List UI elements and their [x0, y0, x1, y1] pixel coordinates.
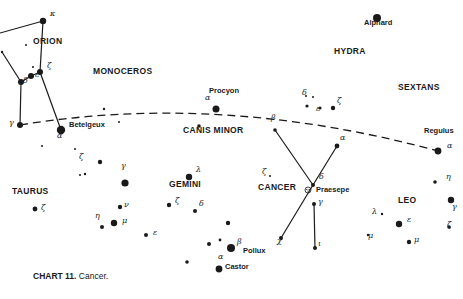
star-dot [32, 66, 34, 68]
greek-letter-label: η [446, 172, 451, 181]
greek-letter-label: ε [316, 104, 320, 113]
star-dot [216, 266, 223, 273]
greek-letter-label: α [340, 133, 345, 142]
star-dot [25, 44, 27, 46]
star-dot [381, 213, 383, 215]
greek-letter-label: α [205, 93, 210, 102]
greek-letter-label: μ [414, 235, 419, 244]
greek-letter-label: λ [196, 165, 201, 174]
star-dot [144, 233, 148, 237]
constellation-label-monoceros: MONOCEROS [93, 66, 152, 76]
greek-letter-label: β [271, 113, 276, 122]
star-dot [84, 173, 86, 175]
greek-letter-label: ν [124, 200, 129, 209]
star-chart [0, 0, 463, 299]
constellation-label-canis-minor: CANIS MINOR [183, 125, 243, 135]
star-dot [227, 244, 235, 252]
star-dot [311, 183, 315, 187]
star-dot [213, 106, 220, 113]
star-dot [74, 148, 76, 150]
constellation-label-sextans: SEXTANS [398, 82, 440, 92]
star-dot [103, 108, 105, 110]
greek-letter-label: μ [368, 231, 373, 240]
constellation-line [275, 130, 313, 185]
star-dot [121, 179, 128, 186]
constellation-label-cancer: CANCER [258, 182, 296, 192]
star-dot [313, 246, 317, 250]
greek-letter-label: ζ [447, 220, 451, 229]
constellation-lines [0, 21, 337, 248]
greek-letter-label: δ [319, 172, 324, 181]
star-dot [41, 145, 43, 147]
star-dot [1, 51, 3, 53]
greek-letter-label: ε [407, 215, 411, 224]
greek-letter-label: ζ [262, 167, 266, 176]
star-name-procyon: Procyon [209, 86, 239, 95]
greek-letter-label: μ [122, 216, 127, 225]
star-dot [185, 260, 189, 264]
star-dot [33, 207, 38, 212]
star-dot [118, 121, 120, 123]
star-dot [226, 221, 230, 225]
star-name-regulus: Regulus [424, 126, 454, 135]
greek-letter-label: ζ [175, 196, 179, 205]
star-dot [193, 209, 197, 213]
star-dot [335, 144, 340, 149]
greek-letter-label: β [237, 237, 242, 246]
greek-letter-label: γ [121, 161, 126, 170]
constellation-label-gemini: GEMINI [169, 179, 201, 189]
constellation-line [20, 82, 21, 125]
constellation-label-hydra: HYDRA [334, 46, 366, 56]
constellation-line [40, 21, 43, 72]
star-dot [100, 225, 104, 229]
greek-letter-label: ε [35, 70, 39, 79]
star-dot [219, 239, 222, 242]
star-name-betelgeuse: Betelgeux [69, 120, 105, 129]
star-dot [167, 203, 171, 207]
stars-layer [1, 14, 454, 272]
constellation-label-taurus: TAURUS [12, 186, 49, 196]
greek-letter-label: δ [199, 199, 204, 208]
greek-letter-label: γ [318, 197, 323, 206]
star-name-praesepe: Praesepe [316, 185, 349, 194]
star-dot [273, 128, 277, 132]
constellation-line [0, 21, 43, 33]
greek-letter-label: ζ [47, 61, 51, 70]
star-name-pollux: Pollux [243, 246, 266, 255]
star-dot [433, 180, 437, 184]
greek-letter-label: δ [23, 76, 28, 85]
star-dot [312, 202, 316, 206]
caption-text: Cancer. [76, 271, 108, 281]
greek-letter-label: γ [9, 118, 14, 127]
star-dot [305, 104, 308, 107]
greek-letter-label: δ [302, 88, 307, 97]
star-dot [331, 106, 335, 110]
star-dot [17, 122, 23, 128]
star-dot [40, 18, 46, 24]
constellation-line [2, 52, 21, 82]
greek-letter-label: ζ [41, 203, 45, 212]
constellation-label-orion: ORION [33, 36, 62, 46]
greek-letter-label: ζ [337, 96, 341, 105]
star-name-alphard: Alphard [364, 18, 392, 27]
greek-letter-label: α [218, 252, 223, 261]
star-dot [28, 73, 34, 79]
constellation-label-leo: LEO [398, 195, 416, 205]
star-dot [118, 205, 122, 209]
greek-letter-label: χ [277, 236, 282, 245]
constellation-line [314, 204, 315, 248]
greek-letter-label: γ [452, 202, 457, 211]
greek-letter-label: η [95, 211, 100, 220]
greek-letter-label: α [447, 141, 452, 150]
greek-letter-label: ε [153, 228, 157, 237]
greek-letter-label: ι [318, 239, 321, 248]
star-dot [312, 96, 314, 98]
constellation-line [40, 72, 61, 130]
greek-letter-label: ζ [79, 152, 83, 161]
star-dot [207, 242, 211, 246]
caption-number: CHART 11. [33, 271, 76, 281]
star-dot [396, 221, 402, 227]
constellation-line [313, 146, 337, 185]
star-dot [111, 220, 117, 226]
greek-letter-label: λ [372, 207, 377, 216]
